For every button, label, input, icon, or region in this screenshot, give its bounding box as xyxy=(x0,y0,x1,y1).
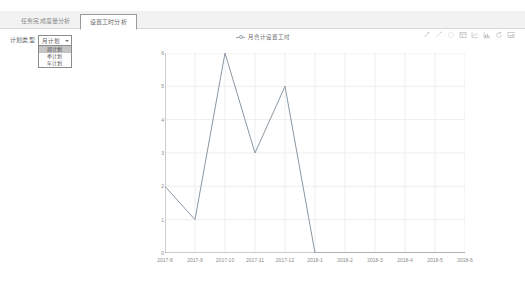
legend-label-0[interactable]: 月合计设置工时 xyxy=(248,33,290,41)
mark-line-icon[interactable] xyxy=(423,31,431,39)
chart-toolbox xyxy=(423,31,515,39)
mark-point-icon[interactable] xyxy=(435,31,443,39)
x-tick-label: 2017-8 xyxy=(157,257,173,263)
x-tick-label: 2018-2 xyxy=(337,257,353,263)
tab-list: 任务完成度量分析 设置工时分析 xyxy=(0,11,525,29)
y-tick-label: 3 xyxy=(161,150,164,156)
chart-svg xyxy=(165,53,465,253)
restore-icon[interactable] xyxy=(495,31,503,39)
x-tick-label: 2017-10 xyxy=(216,257,234,263)
line-chart-icon[interactable] xyxy=(471,31,479,39)
x-tick-label: 2018-1 xyxy=(307,257,323,263)
x-tick-label: 2018-6 xyxy=(457,257,473,263)
x-tick-label: 2017-11 xyxy=(246,257,264,263)
x-tick-label: 2018-5 xyxy=(427,257,443,263)
x-tick-label: 2018-4 xyxy=(397,257,413,263)
save-image-icon[interactable] xyxy=(507,31,515,39)
y-tick-label: 5 xyxy=(161,83,164,89)
x-axis-labels: 2017-82017-92017-102017-112017-122018-12… xyxy=(165,257,465,267)
y-axis-labels: 0123456 xyxy=(150,47,164,259)
x-tick-label: 2017-9 xyxy=(187,257,203,263)
tab-task-completion-analysis[interactable]: 任务完成度量分析 xyxy=(12,14,80,29)
tab-bar: 任务完成度量分析 设置工时分析 xyxy=(0,11,525,29)
tab-worktime-setting-analysis[interactable]: 设置工时分析 xyxy=(80,14,137,30)
legend-marker-icon xyxy=(236,37,245,38)
x-tick-label: 2018-3 xyxy=(367,257,383,263)
y-tick-label: 2 xyxy=(161,183,164,189)
x-tick-label: 2017-12 xyxy=(276,257,294,263)
y-tick-label: 6 xyxy=(161,50,164,56)
chart-plot-area xyxy=(165,53,465,253)
data-view-icon[interactable] xyxy=(459,31,467,39)
clear-mark-icon[interactable] xyxy=(447,31,455,39)
y-tick-label: 4 xyxy=(161,117,164,123)
bar-chart-icon[interactable] xyxy=(483,31,491,39)
y-tick-label: 0 xyxy=(161,250,164,256)
y-tick-label: 1 xyxy=(161,217,164,223)
worktime-line-chart: 月合计设置工时 0123456 2017-82017-92017-1020 xyxy=(0,29,525,286)
